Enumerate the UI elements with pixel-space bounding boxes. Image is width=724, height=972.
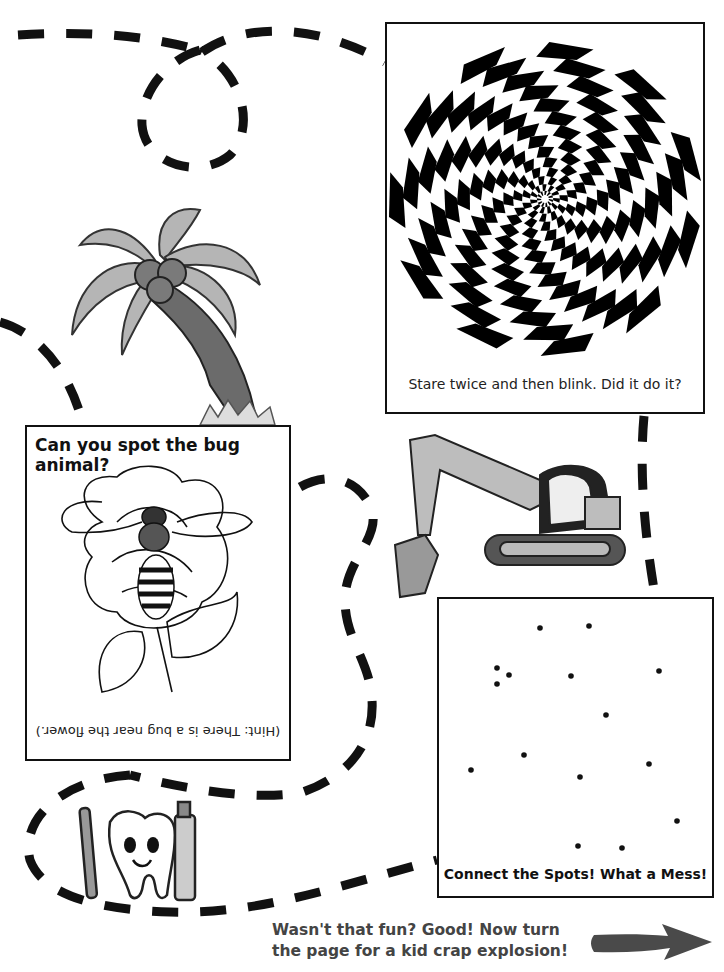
right-arrow-icon[interactable]	[590, 922, 715, 964]
footer-line-1: Wasn't that fun? Good! Now turn	[272, 920, 592, 941]
dot	[646, 761, 652, 767]
dot	[575, 843, 581, 849]
dot	[521, 752, 527, 758]
bug-panel-hint-upside-down: (Hint: There is a bug near the flower.)	[27, 724, 289, 739]
dots-field	[437, 597, 714, 857]
find-the-bug-panel: Can you spot the bug animal? (Hint: Ther…	[25, 425, 291, 761]
spiral-caption: Stare twice and then blink. Did it do it…	[387, 376, 703, 392]
dot	[494, 665, 500, 671]
excavator-illustration	[390, 425, 630, 605]
dot	[603, 712, 609, 718]
footer-line-2: the page for a kid crap explosion!	[272, 941, 592, 962]
dot	[494, 681, 500, 687]
spiral-illusion-panel: Stare twice and then blink. Did it do it…	[385, 22, 705, 414]
spiral-illusion-image	[389, 39, 701, 359]
dot	[537, 625, 543, 631]
dot	[577, 774, 583, 780]
dot	[674, 818, 680, 824]
footer-message: Wasn't that fun? Good! Now turn the page…	[272, 920, 592, 962]
dot	[506, 672, 512, 678]
bee-on-flower-image	[42, 462, 272, 712]
dot	[619, 845, 625, 851]
palm-tree-illustration	[60, 195, 300, 425]
dot	[656, 668, 662, 674]
dot	[568, 673, 574, 679]
tooth-illustration	[75, 800, 205, 905]
dot	[468, 767, 474, 773]
dot	[586, 623, 592, 629]
dots-caption: Connect the Spots! What a Mess!	[439, 866, 712, 882]
connect-the-dots-panel: Connect the Spots! What a Mess!	[437, 597, 714, 898]
